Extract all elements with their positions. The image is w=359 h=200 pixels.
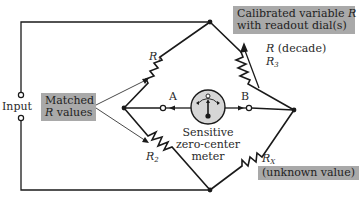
node-bottom	[208, 188, 213, 193]
arrow-a-icon	[169, 106, 175, 111]
arrowhead-r2	[142, 137, 149, 143]
terminal-b	[246, 105, 251, 110]
input-terminal-top	[18, 92, 23, 97]
terminal-a	[160, 105, 165, 110]
matched-line2: R values	[45, 107, 92, 119]
zero-center-meter-icon	[191, 90, 225, 124]
input-label: Input	[2, 101, 32, 113]
terminal-b-label: B	[241, 91, 249, 103]
label-r1: R1	[149, 51, 162, 66]
matched-r-values-box: Matched R values	[41, 93, 96, 121]
calibrated-variable-box: Calibrated variable R with readout dial(…	[233, 6, 355, 34]
unknown-value-box: (unknown value)	[258, 166, 359, 180]
input-terminal-bottom	[18, 115, 23, 120]
meter-label: Sensitive zero-center meter	[176, 127, 240, 163]
calibrated-line2: with readout dial(s)	[237, 20, 351, 32]
label-r2: R2	[146, 151, 159, 166]
label-r3: R3	[266, 56, 279, 71]
resistor-r3	[210, 22, 294, 110]
terminal-a-label: A	[169, 91, 177, 103]
r-decade-label: R (decade)	[266, 43, 326, 55]
arrow-b-icon	[238, 106, 244, 111]
matched-pointer-lines	[96, 80, 146, 141]
node-top	[208, 20, 213, 25]
